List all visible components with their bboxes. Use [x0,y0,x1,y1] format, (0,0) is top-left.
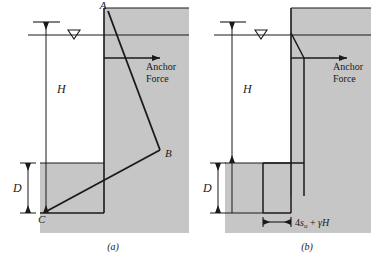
panel-b-anchor-label-line1: Anchor [333,61,364,72]
panel-a-label-h: H [56,82,67,96]
panel-a-label-a: A [99,0,107,11]
panel-a-h-arrow-up [43,22,49,30]
panel-b: 4su + γH H D Anchor Force (b) [202,8,371,253]
panel-b-h-arrow-up [229,22,235,30]
panel-a-d-arrow-up [25,163,31,171]
panel-b-h-arrow-down [229,155,235,163]
panel-b-anchor-label-line2: Force [333,73,356,84]
panel-b-retained-soil [291,8,371,233]
figure-container: A B C H D Anchor Force (a) [0,0,387,268]
panel-a-retained-soil [104,8,189,233]
panel-a-anchor-label-line2: Force [146,73,169,84]
panel-a-anchor-label-line1: Anchor [146,61,177,72]
panel-a-label-d: D [12,181,22,195]
panel-a-label-c: C [38,213,46,225]
panel-b-label-d: D [202,181,212,195]
panel-b-label-h: H [242,82,253,96]
panel-a-caption: (a) [107,241,119,253]
pressure-plus-sign: + [307,217,318,228]
panel-b-caption: (b) [301,241,313,253]
pressure-h-symbol: H [321,217,330,228]
panel-a: A B C H D Anchor Force (a) [12,0,189,253]
panel-b-d-arrow-up [215,163,221,171]
panel-a-d-arrow-down [25,205,31,213]
panel-a-label-b: B [165,147,172,159]
panel-b-d-arrow-down [215,205,221,213]
figure-svg: A B C H D Anchor Force (a) [0,0,387,268]
